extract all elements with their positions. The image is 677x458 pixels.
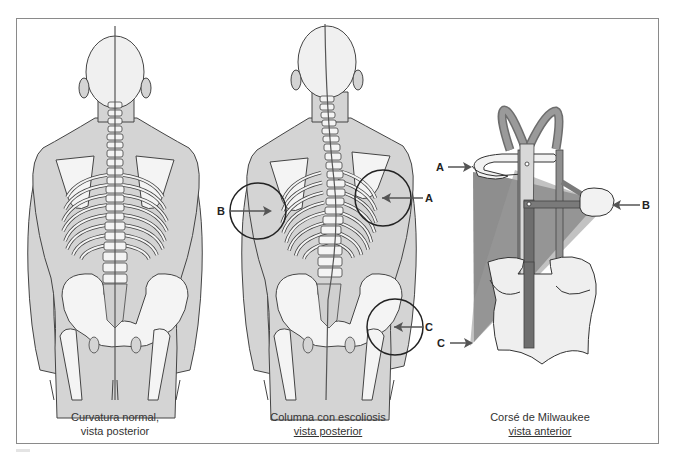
- caption-normal-line1: Curvatura normal,: [30, 410, 200, 424]
- left-ear: [291, 70, 301, 90]
- figure-artwork: A B C: [0, 0, 677, 458]
- caption-milwaukee: Corsé de Milwaukee vista anterior: [455, 410, 625, 438]
- caption-scoliosis-line2: vista posterior: [243, 424, 413, 438]
- caption-scoliosis: Columna con escoliosis vista posterior: [243, 410, 413, 438]
- figure-marker: [16, 449, 30, 452]
- marker-b: B: [642, 199, 650, 211]
- marker-c: C: [437, 337, 445, 349]
- marker-a: A: [425, 192, 433, 204]
- thoracic-pad: [580, 188, 614, 216]
- caption-normal-line2: vista posterior: [30, 424, 200, 438]
- pelvic-girdle: [488, 257, 596, 364]
- marker-c-arrow: C: [437, 337, 473, 349]
- right-ear: [141, 78, 151, 98]
- marker-a-arrow: A: [436, 161, 472, 173]
- marker-a: A: [436, 161, 444, 173]
- caption-normal: Curvatura normal, vista posterior: [30, 410, 200, 438]
- marker-b: B: [217, 205, 225, 217]
- left-ear: [79, 78, 89, 98]
- caption-scoliosis-line1: Columna con escoliosis: [243, 410, 413, 424]
- marker-c: C: [425, 321, 433, 333]
- caption-milwaukee-line1: Corsé de Milwaukee: [455, 410, 625, 424]
- marker-b-arrow: B: [612, 199, 650, 211]
- normal-back-figure: [28, 26, 203, 418]
- milwaukee-brace-figure: A B C: [436, 110, 650, 364]
- right-ear: [353, 70, 363, 90]
- scoliosis-back-figure: A B C: [217, 24, 433, 420]
- caption-milwaukee-line2: vista anterior: [455, 424, 625, 438]
